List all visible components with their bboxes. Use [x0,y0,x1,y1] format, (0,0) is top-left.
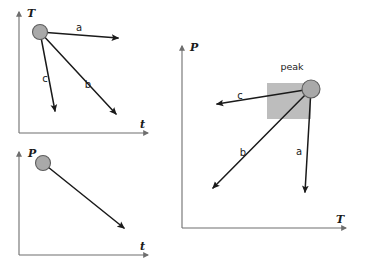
panel-right-vector-b [213,89,311,188]
panel-top-left-vector-c [40,32,55,111]
panel-top-left-vector-b-label: b [85,79,91,90]
panel-top-left-vector-a-label: a [76,22,82,33]
panel-bottom-left-vector [43,163,124,228]
panel-right-y-axis-label: P [189,41,199,54]
panel-top-left-vector-b [40,32,116,114]
panel-right-x-axis-label: T [336,213,345,226]
panel-top-left-y-axis-label: T [27,7,36,20]
panel-right-peak-marker [302,80,320,98]
panel-right-vector-a-label: a [296,146,302,157]
panel-right-vector-c-label: c [237,90,243,101]
panel-top-left: T t a b c [19,7,148,133]
panel-bottom-left-x-axis-label: t [140,240,145,253]
panel-bottom-left-state-marker [36,156,51,171]
diagram-figure: T t a b c P t P T [0,0,365,264]
panel-bottom-left: P t [19,147,148,255]
panel-top-left-state-marker [33,25,48,40]
panel-top-left-x-axis-label: t [140,118,145,131]
panel-bottom-left-y-axis-label: P [27,147,37,160]
panel-right: P T peak c b a [182,41,346,228]
peak-annotation-label: peak [280,61,304,72]
panel-top-left-vector-c-label: c [42,73,48,84]
vector-diagram-canvas: T t a b c P t P T [0,0,365,264]
panel-right-vector-b-label: b [240,147,246,158]
